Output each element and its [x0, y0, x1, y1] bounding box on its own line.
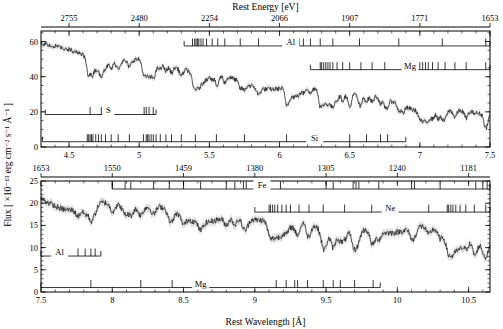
ion-marker-row-al-0: Al [184, 37, 490, 48]
ytick-label: 15 [30, 220, 39, 230]
energy-tick-label: 1459 [175, 163, 192, 173]
energy-tick-label: 1907 [341, 13, 358, 23]
ytick-label: 20 [30, 198, 39, 208]
xtick-label: 6 [277, 150, 281, 160]
ytick-label: 40 [30, 72, 39, 82]
xtick-label: 5.5 [204, 150, 215, 160]
xtick-label: 7 [418, 150, 422, 160]
ion-marker-row-s-0: S [45, 105, 156, 116]
y-axis-title: Flux [ ×10⁻¹³ erg cm⁻² s⁻¹ Å⁻¹ ] [2, 103, 13, 227]
ytick-label: 5 [34, 265, 38, 275]
xtick-label: 6.5 [344, 150, 355, 160]
ion-label: Si [311, 133, 319, 143]
xtick-label: 8 [110, 295, 114, 305]
energy-tick-label: 2066 [271, 13, 288, 23]
ion-label: S [106, 105, 111, 115]
ion-label: Fe [258, 180, 267, 190]
spectrum-figure: 4.555.566.577.50204060275524802254206619… [0, 0, 503, 329]
ion-marker-row-si-0: Si [42, 133, 405, 144]
panel-frame-1 [41, 181, 490, 292]
xtick-label: 9 [253, 295, 257, 305]
energy-tick-label: 1653 [482, 13, 499, 23]
energy-tick-label: 2480 [131, 13, 148, 23]
spectrum-plot-canvas: 4.555.566.577.50204060275524802254206619… [0, 0, 503, 329]
energy-tick-label: 1305 [318, 163, 335, 173]
ion-label: Mg [404, 61, 417, 71]
ytick-label: 0 [34, 142, 38, 152]
energy-tick-label: 1653 [33, 163, 50, 173]
ion-marker-row-al-1: Al [41, 247, 101, 258]
ytick-label: 60 [30, 37, 39, 47]
energy-tick-label: 1550 [104, 163, 121, 173]
ion-label: Al [55, 247, 64, 257]
spectrum-error-band-0 [41, 40, 490, 133]
energy-tick-label: 1181 [460, 163, 477, 173]
bottom-axis-title: Rest Wavelength [Å] [226, 316, 306, 327]
xtick-label: 9.5 [321, 295, 332, 305]
xtick-label: 5 [137, 150, 141, 160]
ion-label: Mg [195, 279, 208, 289]
spectrum-error-band-1 [41, 193, 490, 263]
ytick-label: 25 [30, 176, 39, 186]
ion-marker-row-ne-1: Ne [255, 203, 490, 214]
ion-marker-row-mg-1: Mg [41, 279, 380, 290]
energy-tick-label: 1380 [246, 163, 263, 173]
ytick-label: 10 [30, 243, 39, 253]
ytick-label: 0 [34, 287, 38, 297]
xtick-label: 4.5 [64, 150, 75, 160]
ion-marker-row-mg-0: Mg [310, 61, 490, 72]
top-axis-title: Rest Energy [eV] [232, 2, 298, 12]
xtick-label: 7.5 [485, 150, 496, 160]
xtick-label: 10.5 [461, 295, 476, 305]
energy-tick-label: 1771 [411, 13, 428, 23]
ytick-label: 20 [30, 107, 39, 117]
xtick-label: 8.5 [178, 295, 189, 305]
energy-tick-label: 1240 [389, 163, 406, 173]
energy-tick-label: 2254 [201, 13, 219, 23]
xtick-label: 10 [393, 295, 402, 305]
ion-label: Al [287, 37, 296, 47]
ion-label: Ne [385, 203, 395, 213]
ion-marker-row-fe-1: Fe [112, 180, 490, 191]
energy-tick-label: 2755 [61, 13, 78, 23]
